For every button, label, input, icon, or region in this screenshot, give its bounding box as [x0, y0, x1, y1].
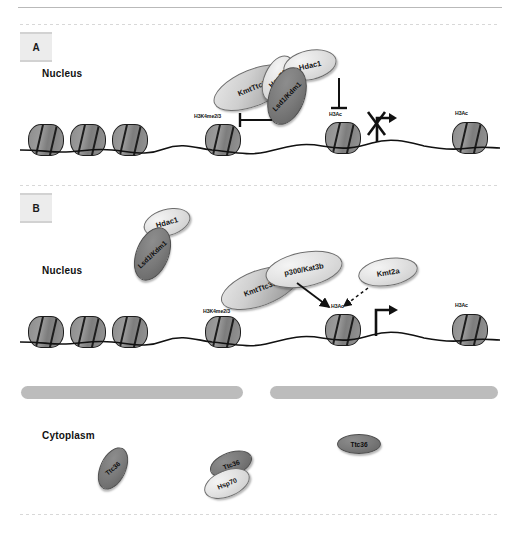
nucleosome	[112, 124, 148, 156]
nucleosome	[28, 316, 64, 348]
protein-oval-ttc36: Ttc36	[92, 443, 135, 495]
nucleosome	[205, 124, 241, 156]
nucleosome	[325, 314, 361, 346]
nucleosome	[112, 316, 148, 348]
histone-mark-label: H3Ac	[455, 110, 468, 116]
protein-label: Hsp70	[216, 476, 238, 490]
nucleosome	[325, 122, 361, 154]
nucleosome	[452, 314, 488, 346]
dotted-separator-mid	[20, 185, 498, 186]
dotted-separator-bottom	[20, 514, 498, 515]
transcription-arrow-active	[376, 305, 398, 336]
histone-mark-label: H3Ac	[329, 111, 342, 117]
inhibition-arrow-to-h3k4me	[240, 113, 272, 127]
histone-mark-label: H3K4me2/3	[203, 308, 230, 314]
histone-mark-label: H3Ac	[331, 303, 344, 309]
panel-a-nucleus-label: Nucleus	[42, 68, 82, 79]
protein-label: Lsd1/Kdm1	[271, 80, 302, 112]
nuclear-membrane-right	[270, 386, 498, 399]
protein-label: p300/Kat3b	[283, 261, 324, 277]
panel-label-b: B	[20, 193, 52, 223]
epigenetic-regulation-figure: A Nucleus H3K4me2/3 H3Ac H3Ac KmtTtc36 H…	[0, 0, 517, 534]
histone-mark-label: H3Ac	[455, 302, 468, 308]
protein-oval-kmt2a: Kmt2a	[356, 253, 420, 290]
dotted-separator-top	[20, 24, 498, 25]
protein-label: Ttc36	[350, 441, 367, 448]
panel-a-letter-text: A	[32, 42, 39, 53]
top-divider-rule	[18, 7, 502, 8]
transcription-arrow-blocked	[368, 112, 397, 142]
cytoplasm-label: Cytoplasm	[42, 430, 95, 441]
protein-label: Ttc36	[104, 460, 122, 476]
nucleosome	[28, 124, 64, 156]
nucleosome	[452, 122, 488, 154]
histone-mark-label: H3K4me2/3	[194, 113, 221, 119]
protein-label: Lsd1/Kdm1	[137, 239, 169, 269]
protein-oval-ttc36: Ttc36	[337, 434, 381, 454]
activation-arrow-kmt2a-dashed	[344, 288, 368, 306]
nucleosome	[205, 316, 241, 348]
protein-label: Kmt2a	[376, 266, 400, 278]
panel-label-a: A	[20, 32, 52, 62]
inhibition-arrow-to-h3ac	[331, 78, 347, 108]
panel-b-nucleus-label: Nucleus	[42, 265, 82, 276]
nuclear-membrane-left	[21, 386, 243, 399]
panel-b-letter-text: B	[32, 203, 39, 214]
nucleosome	[70, 316, 106, 348]
nucleosome	[70, 124, 106, 156]
